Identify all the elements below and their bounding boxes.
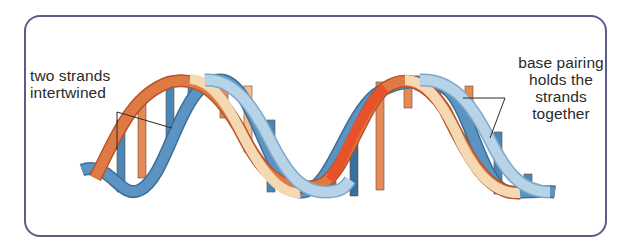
label-right-line1: base pairing xyxy=(490,54,630,71)
label-right-line2: holds the xyxy=(490,71,630,88)
label-right-line4: together xyxy=(490,105,630,122)
label-two-strands-intertwined: two strands intertwined xyxy=(30,67,110,101)
label-left-line2: intertwined xyxy=(30,84,110,101)
label-base-pairing: base pairing holds the strands together xyxy=(490,54,630,122)
label-left-line1: two strands xyxy=(30,67,110,84)
label-right-line3: strands xyxy=(490,88,630,105)
dna-double-helix-illustration xyxy=(0,0,630,247)
